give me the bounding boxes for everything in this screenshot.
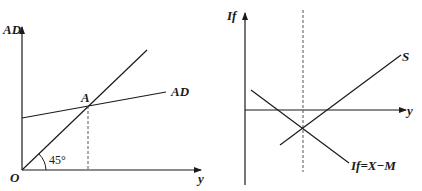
net-export-curve xyxy=(251,90,349,163)
ad-curve xyxy=(22,92,166,118)
angle-arc xyxy=(39,154,46,170)
forty-five-degree-line xyxy=(22,50,147,170)
saving-curve xyxy=(280,55,401,145)
left-y-axis-label: AD xyxy=(2,22,22,37)
angle-label: 45° xyxy=(49,153,66,167)
ad-curve-label: AD xyxy=(170,84,190,99)
right-y-axis-label: If xyxy=(226,8,238,23)
right-panel: If S y If=X−M xyxy=(226,8,413,185)
left-x-axis-label: y xyxy=(196,171,204,186)
net-export-curve-label: If=X−M xyxy=(350,158,396,173)
right-x-axis-label: y xyxy=(405,103,413,118)
diagram-canvas: AD A AD 45° O y If S y If=X−M xyxy=(0,0,422,191)
origin-label: O xyxy=(10,170,20,185)
saving-curve-label: S xyxy=(402,49,409,64)
left-panel: AD A AD 45° O y xyxy=(2,22,204,186)
point-a-label: A xyxy=(80,90,90,105)
